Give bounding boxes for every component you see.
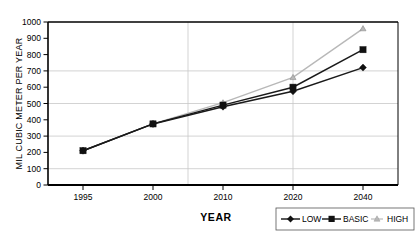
square-marker-icon (360, 47, 366, 53)
x-tick-label: 1995 (74, 192, 93, 202)
y-tick-label: 600 (27, 82, 41, 92)
y-tick-label: 700 (27, 66, 41, 76)
y-tick-label: 900 (27, 33, 41, 43)
y-tick-label: 300 (27, 131, 41, 141)
line-chart: 1000 900 800 700 600 500 400 300 200 100… (0, 0, 418, 239)
legend-label-basic: BASIC (343, 214, 369, 224)
x-axis-title: YEAR (200, 211, 232, 223)
y-axis-tick-labels: 1000 900 800 700 600 500 400 300 200 100… (22, 17, 41, 190)
y-tick-label: 100 (27, 164, 41, 174)
chart-canvas: 1000 900 800 700 600 500 400 300 200 100… (0, 0, 418, 239)
y-axis-title: MIL CUBIC METER PER YEAR (14, 37, 24, 169)
y-tick-label: 0 (36, 180, 41, 190)
y-tick-label: 800 (27, 50, 41, 60)
legend-label-high: HIGH (387, 214, 408, 224)
square-marker-icon (329, 216, 335, 222)
x-axis-tick-labels: 1995 2000 2010 2020 2040 (74, 192, 373, 202)
y-tick-label: 1000 (22, 17, 41, 27)
x-tick-label: 2000 (144, 192, 163, 202)
legend-label-low: LOW (302, 214, 321, 224)
x-tick-label: 2020 (284, 192, 303, 202)
y-tick-label: 500 (27, 99, 41, 109)
y-tick-label: 400 (27, 115, 41, 125)
x-tick-label: 2040 (354, 192, 373, 202)
y-tick-label: 200 (27, 147, 41, 157)
x-tick-label: 2010 (214, 192, 233, 202)
chart-legend[interactable]: LOW BASIC HIGH (276, 208, 414, 230)
